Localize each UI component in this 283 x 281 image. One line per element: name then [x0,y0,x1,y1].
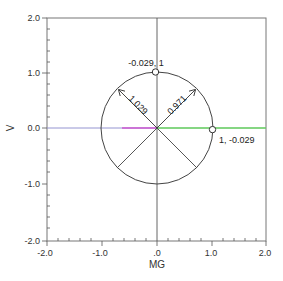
x-tick-label: -2.0 [37,248,53,258]
unit-circle-chart: 2.0 1.0 0.0 -1.0 -2.0 -2.0 -1.0 .0 1.0 2… [0,0,283,281]
x-tick-label: 2.0 [259,248,272,258]
vector-label-right: 0.971 [165,93,188,116]
data-point-right [209,126,215,132]
plot-frame [47,18,266,241]
x-axis-ticks [47,238,266,246]
diagonal-line [117,128,157,168]
point-label-right: 1, -0.029 [219,135,255,145]
x-tick-label: .0 [153,248,161,258]
y-tick-label: 0.0 [27,123,40,133]
y-tick-label: 2.0 [27,13,40,23]
vector-label-left: 1.029 [127,93,150,116]
y-tick-label: 1.0 [27,68,40,78]
x-tick-label: 1.0 [205,248,218,258]
y-axis-title: V [5,124,16,131]
diagonal-line [157,128,197,168]
y-tick-label: -1.0 [24,179,40,189]
x-tick-label: -1.0 [92,248,108,258]
data-point-top [152,69,158,75]
y-axis-ticks [42,18,50,241]
x-axis-title: MG [149,259,165,270]
point-label-top: -0.029, 1 [128,58,164,68]
y-tick-label: -2.0 [24,236,40,246]
